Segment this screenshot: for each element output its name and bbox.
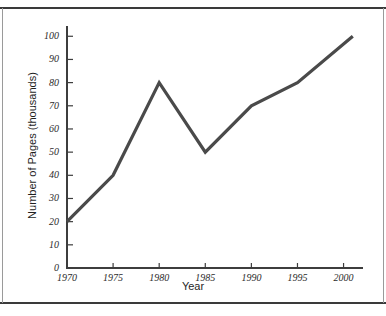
axis-spines (67, 27, 362, 268)
data-series-line (67, 36, 353, 221)
y-tick-label: 0 (33, 263, 59, 273)
y-tick-label: 100 (33, 31, 59, 41)
line-chart: 0102030405060708090100 19701975198019851… (0, 0, 386, 316)
figure-page: 0102030405060708090100 19701975198019851… (0, 0, 386, 316)
x-axis-title: Year (0, 281, 386, 292)
y-tick-label: 10 (33, 240, 59, 250)
y-axis-title: Number of Pages (thousands) (27, 51, 38, 241)
